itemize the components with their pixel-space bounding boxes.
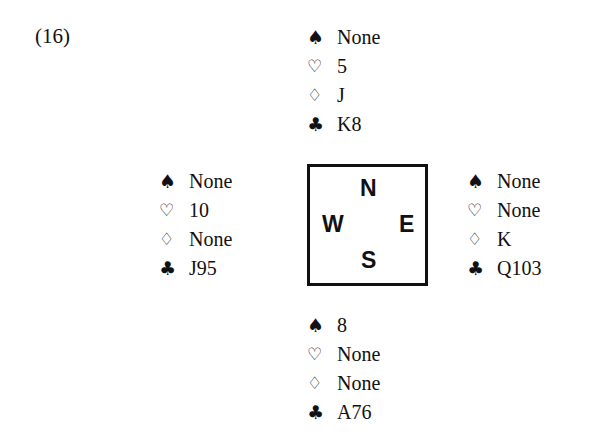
problem-label: (16)	[35, 24, 70, 49]
south-diamonds-row: ♢ None	[306, 369, 380, 398]
spade-icon: ♠	[306, 23, 337, 52]
club-icon: ♣	[466, 254, 497, 283]
west-hand: ♠ None ♡ 10 ♢ None ♣ J95	[158, 167, 232, 283]
east-spades-cards: None	[497, 167, 540, 196]
compass-east: E	[399, 213, 414, 236]
south-spades-row: ♠ 8	[306, 311, 380, 340]
north-diamonds-row: ♢ J	[306, 81, 380, 110]
diamond-icon: ♢	[306, 81, 337, 110]
east-diamonds-cards: K	[497, 225, 511, 254]
south-hearts-cards: None	[337, 340, 380, 369]
west-diamonds-row: ♢ None	[158, 225, 232, 254]
west-hearts-row: ♡ 10	[158, 196, 232, 225]
east-hearts-cards: None	[497, 196, 540, 225]
east-clubs-cards: Q103	[497, 254, 541, 283]
north-clubs-cards: K8	[337, 110, 361, 139]
spade-icon: ♠	[466, 167, 497, 196]
east-hand: ♠ None ♡ None ♢ K ♣ Q103	[466, 167, 541, 283]
spade-icon: ♠	[306, 311, 337, 340]
east-spades-row: ♠ None	[466, 167, 541, 196]
west-spades-cards: None	[189, 167, 232, 196]
west-clubs-row: ♣ J95	[158, 254, 232, 283]
south-hearts-row: ♡ None	[306, 340, 380, 369]
north-spades-cards: None	[337, 23, 380, 52]
heart-icon: ♡	[158, 196, 189, 225]
heart-icon: ♡	[306, 340, 337, 369]
north-hearts-cards: 5	[337, 52, 347, 81]
compass-west: W	[322, 213, 344, 236]
south-clubs-cards: A76	[337, 398, 371, 427]
club-icon: ♣	[158, 254, 189, 283]
east-hearts-row: ♡ None	[466, 196, 541, 225]
spade-icon: ♠	[158, 167, 189, 196]
diamond-icon: ♢	[306, 369, 337, 398]
north-hearts-row: ♡ 5	[306, 52, 380, 81]
heart-icon: ♡	[466, 196, 497, 225]
west-diamonds-cards: None	[189, 225, 232, 254]
west-hearts-cards: 10	[189, 196, 209, 225]
south-diamonds-cards: None	[337, 369, 380, 398]
diamond-icon: ♢	[466, 225, 497, 254]
west-spades-row: ♠ None	[158, 167, 232, 196]
west-clubs-cards: J95	[189, 254, 217, 283]
east-clubs-row: ♣ Q103	[466, 254, 541, 283]
club-icon: ♣	[306, 110, 337, 139]
compass-north: N	[360, 177, 377, 200]
club-icon: ♣	[306, 398, 337, 427]
south-clubs-row: ♣ A76	[306, 398, 380, 427]
diamond-icon: ♢	[158, 225, 189, 254]
east-diamonds-row: ♢ K	[466, 225, 541, 254]
north-hand: ♠ None ♡ 5 ♢ J ♣ K8	[306, 23, 380, 139]
compass-south: S	[361, 249, 376, 272]
north-diamonds-cards: J	[337, 81, 345, 110]
south-spades-cards: 8	[337, 311, 347, 340]
heart-icon: ♡	[306, 52, 337, 81]
south-hand: ♠ 8 ♡ None ♢ None ♣ A76	[306, 311, 380, 427]
compass-box: N W E S	[307, 164, 428, 286]
north-spades-row: ♠ None	[306, 23, 380, 52]
north-clubs-row: ♣ K8	[306, 110, 380, 139]
